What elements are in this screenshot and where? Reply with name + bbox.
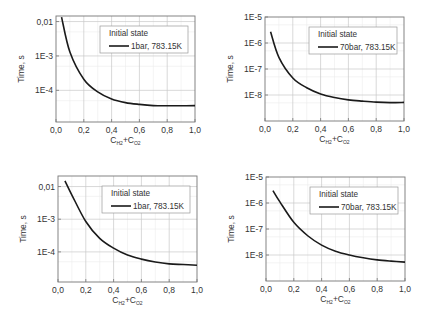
y-tick-label: 1E-5 xyxy=(244,12,262,22)
legend: Initial state70bar, 783.15K xyxy=(310,187,398,214)
legend: Initial state1bar, 783.15K xyxy=(102,186,190,213)
y-tick-label: 1E-3 xyxy=(35,51,53,61)
x-tick-label: 0,8 xyxy=(161,125,173,135)
x-tick-label: 0,4 xyxy=(108,285,120,295)
legend-entry: 70bar, 783.15K xyxy=(341,203,397,212)
x-tick-label: 0,6 xyxy=(342,124,354,134)
x-label-sub: O2 xyxy=(343,139,350,145)
x-tick-label: 0,8 xyxy=(371,284,383,294)
y-axis: 0,011E-31E-4 xyxy=(37,182,61,257)
y-tick-label: 1E-4 xyxy=(35,85,53,95)
x-tick-label: 0,2 xyxy=(80,285,92,295)
y-axis-label: Time, s xyxy=(226,215,236,243)
chart-top-right: 0,00,20,40,60,81,01E-51E-61E-71E-8Time, … xyxy=(225,12,410,145)
y-axis-label: Time, s xyxy=(16,55,26,83)
legend-title: Initial state xyxy=(111,189,151,198)
y-axis: 1E-51E-61E-71E-8 xyxy=(245,172,269,260)
x-axis-label: CH2+CO2 xyxy=(110,135,141,146)
x-label-part: +C xyxy=(123,135,134,145)
legend-entry: 1bar, 783.15K xyxy=(133,202,185,211)
legend: Initial state1bar, 783.15K xyxy=(100,26,188,53)
x-label-sub: O2 xyxy=(134,140,141,146)
x-tick-label: 0,2 xyxy=(78,125,90,135)
x-label-sub: O2 xyxy=(344,299,351,305)
x-tick-label: 0,4 xyxy=(106,125,118,135)
legend: Initial state70bar, 783.15K xyxy=(309,27,397,54)
x-label-part: +C xyxy=(333,294,344,304)
legend-entry: 70bar, 783.15K xyxy=(340,43,396,52)
x-tick-label: 0,6 xyxy=(135,285,147,295)
x-tick-label: 1,0 xyxy=(398,124,410,134)
y-tick-label: 1E-6 xyxy=(245,198,263,208)
legend-title: Initial state xyxy=(318,30,358,39)
legend-title: Initial state xyxy=(109,29,149,38)
y-tick-label: 1E-4 xyxy=(37,247,55,257)
chart-bottom-left: 0,00,20,40,60,81,00,011E-31E-4Time, sCH2… xyxy=(18,176,203,306)
x-tick-label: 0,6 xyxy=(133,125,145,135)
x-tick-label: 0,8 xyxy=(163,285,175,295)
y-tick-label: 1E-7 xyxy=(245,224,263,234)
chart-grid: 0,00,20,40,60,81,00,011E-31E-4Time, sCH2… xyxy=(0,0,424,317)
y-tick-label: 1E-8 xyxy=(245,250,263,260)
x-tick-label: 0,2 xyxy=(288,284,300,294)
y-axis-label: Time, s xyxy=(225,55,235,83)
x-tick-label: 1,0 xyxy=(191,285,203,295)
y-tick-label: 1E-3 xyxy=(37,214,55,224)
y-tick-label: 0,01 xyxy=(36,17,53,27)
figure-canvas: 0,00,20,40,60,81,00,011E-31E-4Time, sCH2… xyxy=(0,0,424,317)
chart-top-left: 0,00,20,40,60,81,00,011E-31E-4Time, sCH2… xyxy=(16,16,201,146)
y-tick-label: 1E-6 xyxy=(244,38,262,48)
x-label-sub: O2 xyxy=(136,300,143,306)
y-axis: 0,011E-31E-4 xyxy=(35,17,59,96)
y-tick-label: 1E-7 xyxy=(244,64,262,74)
x-tick-label: 0,0 xyxy=(52,285,64,295)
legend-entry: 1bar, 783.15K xyxy=(131,42,183,51)
x-axis-label: CH2+CO2 xyxy=(112,295,143,306)
x-tick-label: 0,0 xyxy=(260,284,272,294)
x-tick-label: 0,0 xyxy=(259,124,271,134)
legend-title: Initial state xyxy=(319,190,359,199)
x-label-part: +C xyxy=(332,134,343,144)
x-tick-label: 0,2 xyxy=(287,124,299,134)
chart-bottom-right: 0,00,20,40,60,81,01E-51E-61E-71E-8Time, … xyxy=(226,172,411,305)
y-axis-label: Time, s xyxy=(18,215,28,243)
x-tick-label: 0,0 xyxy=(50,125,62,135)
x-tick-label: 0,8 xyxy=(370,124,382,134)
x-tick-label: 1,0 xyxy=(399,284,411,294)
y-tick-label: 0,01 xyxy=(38,182,55,192)
y-axis: 1E-51E-61E-71E-8 xyxy=(244,12,268,100)
x-tick-label: 0,6 xyxy=(343,284,355,294)
x-tick-label: 0,4 xyxy=(315,124,327,134)
y-tick-label: 1E-5 xyxy=(245,172,263,182)
x-axis-label: CH2+CO2 xyxy=(319,134,350,145)
x-axis-label: CH2+CO2 xyxy=(320,294,351,305)
y-tick-label: 1E-8 xyxy=(244,90,262,100)
x-label-part: +C xyxy=(125,295,136,305)
x-tick-label: 1,0 xyxy=(189,125,201,135)
x-tick-label: 0,4 xyxy=(316,284,328,294)
